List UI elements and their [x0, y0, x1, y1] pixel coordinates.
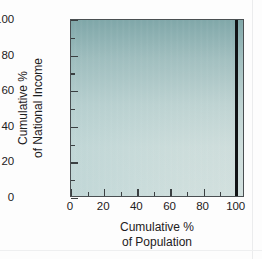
x-axis-tick-label: 40 — [130, 200, 143, 212]
x-axis-tick-label: 100 — [226, 200, 245, 212]
scan-edge-artifact-bottom — [0, 250, 262, 251]
y-axis-title-line-2: of National Income — [31, 58, 45, 158]
y-axis-tick-label: 60 — [1, 84, 14, 96]
y-axis-tick-label: 100 — [0, 13, 14, 25]
y-axis-major-tick — [71, 127, 78, 128]
x-axis-minor-tick — [220, 192, 221, 196]
x-axis-title-line-1: Cumulative % — [70, 220, 244, 235]
x-axis-major-tick — [71, 189, 72, 196]
y-axis-major-tick — [71, 56, 78, 57]
x-axis-title-line-2: of Population — [70, 235, 244, 250]
x-axis-tick-label: 80 — [196, 200, 209, 212]
scan-edge-artifact-right — [252, 0, 253, 259]
y-axis-title-line-1: Cumulative % — [16, 71, 30, 145]
y-axis-minor-tick — [71, 73, 75, 74]
y-axis-major-tick — [71, 91, 78, 92]
x-axis-major-tick — [170, 189, 171, 196]
y-axis-tick-label: 40 — [1, 120, 14, 132]
x-axis-tick-label: 20 — [97, 200, 110, 212]
x-axis-major-tick — [204, 189, 205, 196]
y-axis-tick-label: 20 — [1, 155, 14, 167]
y-axis-minor-tick — [71, 109, 75, 110]
x-axis-major-tick — [137, 189, 138, 196]
y-axis-major-tick — [71, 162, 78, 163]
y-axis-major-tick — [71, 20, 78, 21]
y-axis-title: Cumulative % of National Income — [14, 19, 46, 197]
x-axis-minor-tick — [88, 192, 89, 196]
x-axis-major-tick — [104, 189, 105, 196]
x-axis-minor-tick — [154, 192, 155, 196]
x-axis-minor-tick — [121, 192, 122, 196]
plot-area — [70, 19, 244, 197]
y-axis-minor-tick — [71, 145, 75, 146]
y-axis-minor-tick — [71, 180, 75, 181]
x-axis-tick-label: 0 — [67, 200, 73, 212]
x-axis-tick-label: 60 — [163, 200, 176, 212]
lorenz-curve-figure: 020406080100 020406080100 Cumulative % o… — [0, 0, 262, 259]
x-axis-minor-tick — [187, 192, 188, 196]
y-axis-minor-tick — [71, 38, 75, 39]
y-axis-major-tick — [71, 198, 78, 199]
x-axis-title: Cumulative % of Population — [70, 220, 244, 250]
y-axis-tick-label: 80 — [1, 49, 14, 61]
lorenz-curve-line — [235, 20, 238, 196]
